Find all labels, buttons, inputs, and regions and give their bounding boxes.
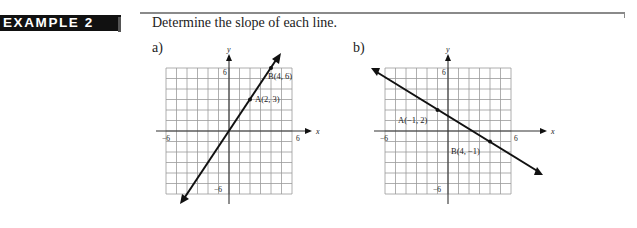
graph-a-point-a-label: A(2, 3): [255, 94, 280, 104]
graph-b-point-b: [488, 140, 492, 144]
graph-b-tick-xmax: 6: [514, 134, 518, 143]
graph-b-x-arrow-icon: [540, 128, 547, 134]
graph-a-tick-xmin: −6: [162, 134, 170, 143]
header-rule: [140, 12, 625, 14]
graph-b-tick-xmin: −6: [380, 134, 388, 143]
graph-a: x y −6 6 6 −6 A(2, 3) B(4, 6): [150, 40, 330, 228]
graph-b-point-a-label: A(−1, 2): [398, 115, 428, 125]
graph-a-line-arrow-bottom-icon: [180, 194, 189, 204]
graph-a-point-b: [269, 66, 273, 70]
graph-a-point-b-label: B(4, 6): [268, 71, 292, 81]
header-rule-end: [624, 12, 625, 18]
graph-b-y-arrow-icon: [445, 54, 451, 61]
graph-b-point-a: [436, 108, 440, 112]
graph-a-y-label: y: [226, 45, 231, 54]
graph-a-tick-ymin: −6: [214, 185, 222, 194]
graph-a-x-arrow-icon: [305, 128, 312, 134]
graph-b-line-arrow-left-icon: [371, 68, 380, 76]
graph-b-tick-ymax: 6: [442, 68, 446, 77]
graph-b-x-label: x: [550, 127, 555, 136]
badge-shadow: [118, 17, 121, 32]
graph-a-tick-ymax: 6: [223, 68, 227, 77]
graph-b-point-b-label: B(4, −1): [451, 146, 480, 156]
graph-a-point-a: [248, 98, 252, 102]
graph-a-tick-xmax: 6: [296, 134, 300, 143]
graph-a-y-arrow-icon: [226, 54, 232, 61]
example-badge: EXAMPLE 2: [0, 15, 121, 31]
graph-b: x y −6 6 6 −6 A(−1, 2) B(4, −1): [369, 40, 559, 228]
graph-b-y-label: y: [445, 45, 450, 54]
graph-b-line-arrow-right-icon: [534, 167, 543, 175]
part-b-label: b): [353, 40, 365, 56]
graph-a-x-label: x: [315, 127, 320, 136]
graph-b-tick-ymin: −6: [433, 185, 441, 194]
problem-prompt: Determine the slope of each line.: [152, 15, 337, 31]
